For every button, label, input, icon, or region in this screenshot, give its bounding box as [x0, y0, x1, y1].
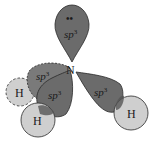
- orbital-svg: •• sp3 sp3 sp3 sp3 N H H H: [0, 0, 159, 149]
- hydrogen-back-label: H: [15, 86, 24, 100]
- nitrogen-label: N: [66, 63, 75, 77]
- hydrogen-right-label: H: [127, 107, 136, 121]
- lone-pair-dots: ••: [66, 13, 74, 24]
- hydrogen-front-label: H: [33, 114, 42, 128]
- nh3-orbital-diagram: •• sp3 sp3 sp3 sp3 N H H H: [0, 0, 159, 149]
